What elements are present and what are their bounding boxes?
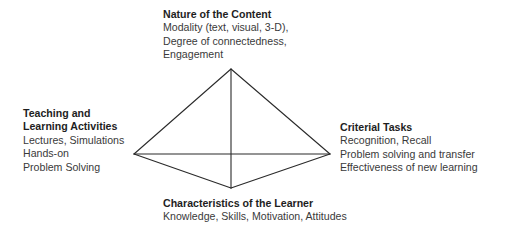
node-line: Effectiveness of new learning <box>340 161 478 174</box>
node-criterial-tasks: Criterial Tasks Recognition, Recall Prob… <box>340 121 478 175</box>
edge-top-left <box>134 69 231 154</box>
node-title: Learning Activities <box>23 120 124 133</box>
node-line: Modality (text, visual, 3-D), <box>163 21 288 34</box>
node-title: Criterial Tasks <box>340 121 478 134</box>
node-line: Problem Solving <box>23 161 124 174</box>
node-teaching-learning-activities: Teaching and Learning Activities Lecture… <box>23 107 124 174</box>
node-line: Hands-on <box>23 147 124 160</box>
node-characteristics-of-learner: Characteristics of the Learner Knowledge… <box>163 197 347 224</box>
edge-left-bottom <box>134 154 231 188</box>
edge-top-right <box>231 69 330 154</box>
node-line: Problem solving and transfer <box>340 148 478 161</box>
node-nature-of-content: Nature of the Content Modality (text, vi… <box>163 8 288 62</box>
node-line: Recognition, Recall <box>340 134 478 147</box>
node-line: Engagement <box>163 48 288 61</box>
node-title: Teaching and <box>23 107 124 120</box>
node-line: Lectures, Simulations <box>23 134 124 147</box>
node-line: Knowledge, Skills, Motivation, Attitudes <box>163 210 347 223</box>
node-line: Degree of connectedness, <box>163 35 288 48</box>
node-title: Characteristics of the Learner <box>163 197 347 210</box>
node-title: Nature of the Content <box>163 8 288 21</box>
edge-right-bottom <box>231 154 330 188</box>
